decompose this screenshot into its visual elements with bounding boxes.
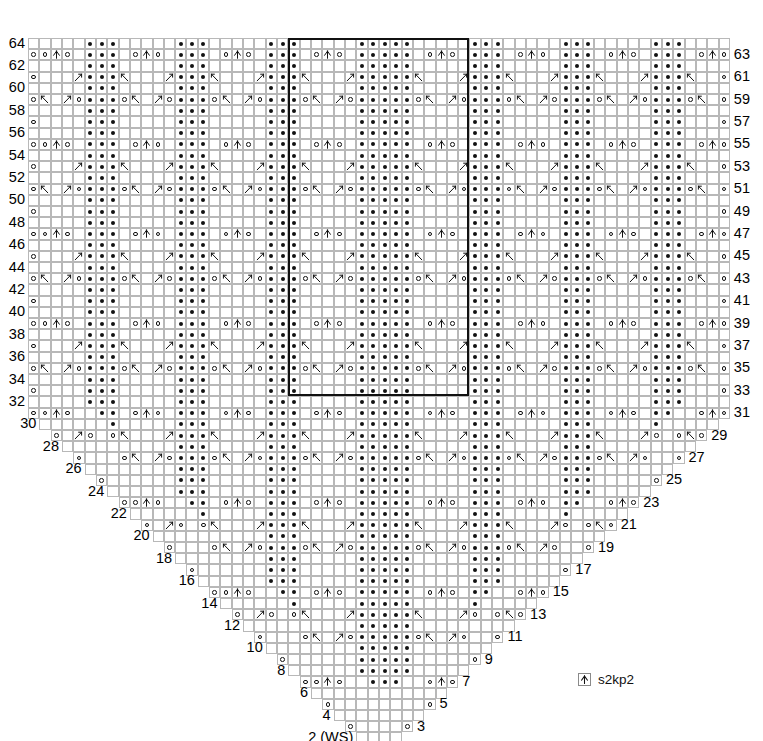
chart-cell <box>96 329 107 340</box>
chart-cell <box>368 150 379 161</box>
chart-cell <box>526 273 537 284</box>
chart-cell <box>85 60 96 71</box>
chart-cell <box>153 452 164 463</box>
chart-cell <box>345 340 356 351</box>
chart-cell <box>639 72 650 83</box>
chart-cell <box>119 206 130 217</box>
chart-cell <box>39 273 50 284</box>
row-label-61: 61 <box>734 68 750 84</box>
chart-cell <box>288 654 299 665</box>
chart-cell <box>334 83 345 94</box>
chart-cell <box>515 105 526 116</box>
chart-cell <box>62 352 73 363</box>
chart-cell <box>719 94 730 105</box>
chart-cell <box>288 38 299 49</box>
chart-cell <box>96 139 107 150</box>
chart-cell <box>175 352 186 363</box>
chart-cell <box>356 307 367 318</box>
chart-cell <box>107 195 118 206</box>
chart-cell <box>390 632 401 643</box>
chart-cell <box>413 307 424 318</box>
chart-cell <box>345 609 356 620</box>
chart-cell <box>266 363 277 374</box>
chart-cell <box>390 340 401 351</box>
chart-cell <box>119 49 130 60</box>
chart-cell <box>85 251 96 262</box>
chart-cell <box>266 72 277 83</box>
chart-cell <box>549 128 560 139</box>
chart-cell <box>345 172 356 183</box>
legend: s2kp2 <box>578 672 634 687</box>
chart-cell <box>481 195 492 206</box>
chart-cell <box>345 598 356 609</box>
chart-cell <box>198 83 209 94</box>
chart-cell <box>300 83 311 94</box>
chart-cell <box>311 497 322 508</box>
chart-cell <box>288 340 299 351</box>
chart-cell <box>73 49 84 60</box>
chart-cell <box>356 587 367 598</box>
chart-cell <box>119 284 130 295</box>
chart-cell <box>515 195 526 206</box>
chart-cell <box>220 475 231 486</box>
chart-cell <box>424 184 435 195</box>
chart-cell <box>413 699 424 710</box>
chart-cell <box>198 262 209 273</box>
chart-cell <box>198 486 209 497</box>
chart-cell <box>560 94 571 105</box>
chart-cell <box>673 452 684 463</box>
chart-cell <box>141 228 152 239</box>
chart-cell <box>549 284 560 295</box>
chart-cell <box>254 542 265 553</box>
chart-cell <box>662 452 673 463</box>
chart-cell <box>28 374 39 385</box>
chart-cell <box>130 385 141 396</box>
chart-cell <box>436 352 447 363</box>
chart-cell <box>130 452 141 463</box>
chart-cell <box>379 632 390 643</box>
chart-cell <box>243 497 254 508</box>
chart-cell <box>164 273 175 284</box>
chart-cell <box>254 419 265 430</box>
chart-cell <box>560 83 571 94</box>
chart-cell <box>175 408 186 419</box>
chart-cell <box>345 240 356 251</box>
chart-cell <box>492 307 503 318</box>
chart-cell <box>198 340 209 351</box>
chart-cell <box>368 83 379 94</box>
chart-cell <box>73 396 84 407</box>
chart-cell <box>254 161 265 172</box>
chart-cell <box>503 419 514 430</box>
chart-cell <box>458 441 469 452</box>
chart-cell <box>266 419 277 430</box>
chart-cell <box>28 385 39 396</box>
chart-cell <box>379 475 390 486</box>
chart-cell <box>458 654 469 665</box>
chart-cell <box>141 329 152 340</box>
chart-cell <box>232 206 243 217</box>
chart-cell <box>368 699 379 710</box>
chart-cell <box>356 441 367 452</box>
chart-cell <box>492 240 503 251</box>
chart-cell <box>209 553 220 564</box>
chart-cell <box>379 688 390 699</box>
chart-cell <box>311 430 322 441</box>
chart-cell <box>390 508 401 519</box>
chart-cell <box>685 296 696 307</box>
chart-cell <box>243 441 254 452</box>
chart-cell <box>220 329 231 340</box>
chart-cell <box>549 363 560 374</box>
chart-cell <box>379 396 390 407</box>
chart-cell <box>232 464 243 475</box>
chart-cell <box>254 284 265 295</box>
chart-cell <box>186 184 197 195</box>
chart-cell <box>130 38 141 49</box>
chart-cell <box>492 542 503 553</box>
row-label-56: 56 <box>9 124 25 140</box>
chart-cell <box>96 105 107 116</box>
chart-cell <box>153 60 164 71</box>
chart-cell <box>503 72 514 83</box>
chart-cell <box>402 475 413 486</box>
chart-cell <box>96 396 107 407</box>
chart-cell <box>334 609 345 620</box>
